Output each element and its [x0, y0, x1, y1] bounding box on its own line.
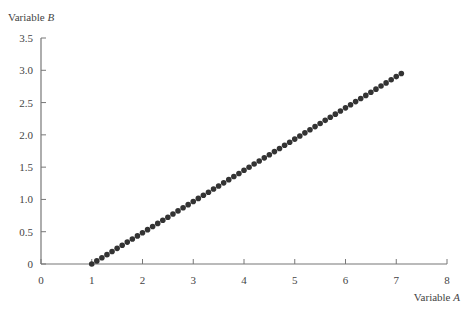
scatter-chart: 00.51.01.52.02.53.03.5 012345678 Variabl… [0, 0, 466, 315]
data-point [145, 227, 151, 233]
y-axis: 00.51.01.52.02.53.03.5 [19, 32, 46, 270]
y-tick-label: 2.5 [19, 97, 33, 109]
y-tick-label: 1.5 [19, 161, 33, 173]
data-point [262, 155, 268, 161]
data-point [150, 224, 156, 230]
data-point [373, 86, 379, 92]
data-point [160, 217, 166, 223]
y-tick-label: 1.0 [19, 193, 33, 205]
data-point [272, 149, 278, 155]
data-point [124, 239, 130, 245]
y-tick-label: 0 [28, 258, 34, 270]
data-point [358, 96, 364, 102]
x-axis-title: Variable A [414, 291, 460, 303]
data-point [211, 186, 217, 192]
data-point [322, 118, 328, 124]
data-point [140, 230, 146, 236]
x-tick-label: 8 [444, 274, 450, 286]
data-point [130, 236, 136, 242]
data-point [343, 105, 349, 111]
x-tick-label: 2 [140, 274, 146, 286]
data-point [317, 121, 323, 127]
x-axis: 012345678 [38, 259, 450, 286]
data-point [196, 196, 202, 202]
data-point [170, 211, 176, 217]
x-tick-label: 6 [343, 274, 349, 286]
data-point [383, 80, 389, 86]
x-tick-label: 3 [191, 274, 197, 286]
data-point [287, 139, 293, 145]
data-point [94, 258, 100, 264]
data-point [297, 133, 303, 139]
data-point [251, 161, 257, 167]
data-point [155, 221, 161, 227]
data-point [241, 168, 247, 174]
data-point [185, 202, 191, 208]
data-point [135, 233, 141, 239]
x-tick-label: 7 [394, 274, 400, 286]
data-point [353, 99, 359, 105]
data-point [231, 174, 237, 180]
data-point [109, 249, 115, 255]
data-point [190, 199, 196, 205]
y-tick-label: 3.5 [19, 32, 33, 44]
data-point [119, 242, 125, 248]
data-point [256, 158, 262, 164]
y-tick-label: 0.5 [19, 226, 33, 238]
data-point [388, 77, 394, 83]
data-point [114, 246, 120, 252]
data-point [267, 152, 273, 158]
x-tick-label: 5 [292, 274, 298, 286]
data-point [99, 255, 105, 261]
data-point [282, 143, 288, 149]
data-point [201, 192, 207, 198]
x-tick-label: 4 [241, 274, 247, 286]
data-point [277, 146, 283, 152]
data-point [348, 102, 354, 108]
x-tick-label: 1 [89, 274, 95, 286]
data-point [175, 208, 181, 214]
data-point [399, 71, 405, 77]
data-point [89, 261, 95, 267]
y-tick-label: 3.0 [19, 64, 33, 76]
data-point [221, 180, 227, 186]
data-point [312, 124, 318, 130]
data-point [226, 177, 232, 183]
data-points [89, 71, 404, 267]
data-point [302, 130, 308, 136]
data-point [292, 136, 298, 142]
data-point [363, 93, 369, 99]
data-point [216, 183, 222, 189]
data-point [206, 189, 212, 195]
data-point [165, 214, 171, 220]
data-point [246, 164, 252, 170]
data-point [307, 127, 313, 133]
data-point [180, 205, 186, 211]
x-tick-label: 0 [38, 274, 44, 286]
data-point [393, 74, 399, 80]
data-point [327, 114, 333, 120]
data-point [338, 108, 344, 114]
y-tick-label: 2.0 [19, 129, 33, 141]
data-point [236, 171, 242, 177]
data-point [333, 111, 339, 117]
data-point [104, 252, 110, 258]
data-point [378, 83, 384, 89]
y-axis-title: Variable B [8, 11, 54, 23]
data-point [368, 89, 374, 95]
